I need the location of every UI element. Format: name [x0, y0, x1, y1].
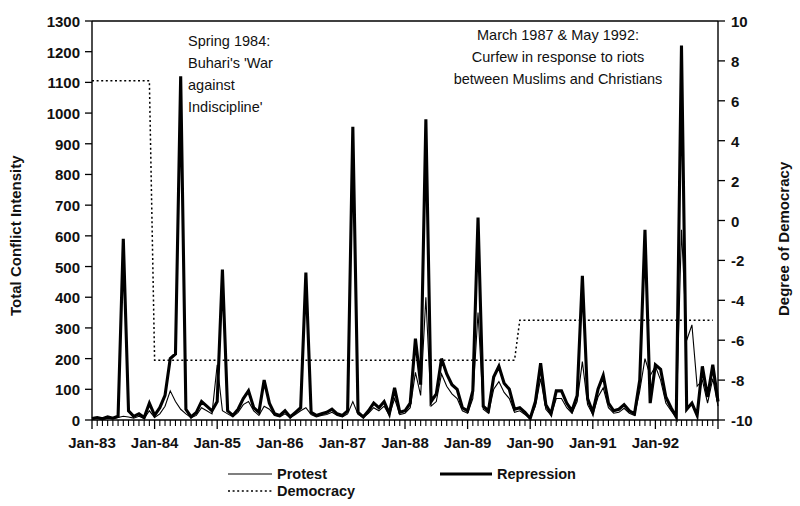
annotation-1984-line-1: Buhari's 'War	[188, 55, 273, 71]
left-axis-tick-label: 900	[55, 136, 80, 153]
x-axis-tick-label: Jan-87	[319, 434, 367, 451]
right-axis-tick-label: 0	[731, 213, 739, 230]
left-axis-tick-label: 1300	[47, 13, 80, 30]
x-axis-labels: Jan-83Jan-84Jan-85Jan-86Jan-87Jan-88Jan-…	[68, 434, 679, 451]
legend-label-protest: Protest	[277, 466, 327, 482]
left-axis-tick-label: 1200	[47, 44, 80, 61]
legend-label-repression: Repression	[497, 466, 576, 482]
left-axis-tick-label: 400	[55, 289, 80, 306]
left-axis-tick-label: 700	[55, 197, 80, 214]
right-axis-tick-label: 4	[731, 133, 740, 150]
annotation-1984-line-0: Spring 1984:	[188, 33, 270, 49]
x-axis-tick-label: Jan-85	[193, 434, 241, 451]
right-axis-tick-label: 8	[731, 53, 739, 70]
right-axis-title: Degree of Democracy	[775, 161, 792, 316]
right-axis-tick-label: -6	[731, 332, 744, 349]
annotation-curfew: March 1987 & May 1992: Curfew in respons…	[454, 27, 663, 87]
right-axis-tick-label: 6	[731, 93, 739, 110]
data-series	[92, 46, 718, 420]
x-axis-tick-label: Jan-84	[131, 434, 179, 451]
x-axis-tick-label: Jan-88	[381, 434, 429, 451]
right-axis-ticks: 1086420-2-4-6-8-10	[718, 13, 753, 429]
right-axis-tick-label: -2	[731, 252, 744, 269]
x-axis-tick-label: Jan-89	[444, 434, 492, 451]
left-axis-tick-label: 600	[55, 228, 80, 245]
right-axis-tick-label: 2	[731, 173, 739, 190]
series-line-repression	[92, 46, 718, 419]
x-axis-tick-label: Jan-90	[506, 434, 554, 451]
conflict-intensity-chart: 1300120011001000900800700600500400300200…	[0, 0, 800, 506]
annotation-curfew-line-0: March 1987 & May 1992:	[477, 27, 639, 43]
left-axis-tick-label: 200	[55, 351, 80, 368]
right-axis-tick-label: -10	[731, 412, 753, 429]
left-axis-tick-label: 300	[55, 320, 80, 337]
left-axis-tick-label: 1100	[47, 74, 80, 91]
left-axis-tick-label: 0	[72, 412, 80, 429]
left-axis-tick-label: 500	[55, 259, 80, 276]
annotation-1984-line-2: against	[188, 77, 235, 93]
left-axis-title: Total Conflict Intensity	[7, 155, 24, 316]
x-axis-tick-label: Jan-91	[569, 434, 617, 451]
left-axis-tick-label: 1000	[47, 105, 80, 122]
left-axis-ticks: 1300120011001000900800700600500400300200…	[47, 13, 92, 429]
right-axis-tick-label: 10	[731, 13, 748, 30]
annotation-1984: Spring 1984: Buhari's 'War against Indis…	[188, 33, 273, 115]
chart-legend: Protest Democracy Repression	[228, 466, 576, 499]
x-axis-tick-label: Jan-83	[68, 434, 116, 451]
legend-label-democracy: Democracy	[277, 483, 355, 499]
right-axis-tick-label: -8	[731, 372, 744, 389]
left-axis-tick-label: 800	[55, 166, 80, 183]
annotation-1984-line-3: Indiscipline'	[188, 99, 263, 115]
annotation-curfew-line-2: between Muslims and Christians	[454, 71, 663, 87]
x-axis-tick-label: Jan-86	[256, 434, 304, 451]
right-axis-tick-label: -4	[731, 292, 745, 309]
left-axis-tick-label: 100	[55, 381, 80, 398]
annotation-curfew-line-1: Curfew in response to riots	[472, 49, 644, 65]
x-axis-tick-label: Jan-92	[632, 434, 680, 451]
x-axis-ticks	[92, 420, 718, 429]
